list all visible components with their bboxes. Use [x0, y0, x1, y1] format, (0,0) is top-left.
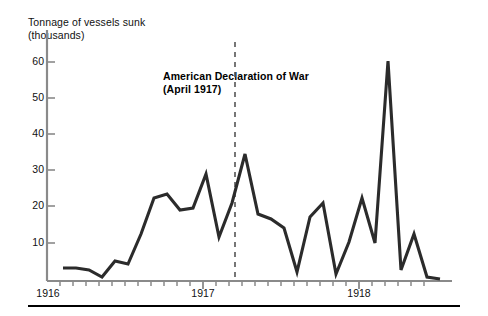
tonnage-series-line [63, 61, 440, 279]
y-axis [47, 30, 55, 281]
x-tick-label-1918: 1918 [339, 287, 379, 299]
y-tick-label-60: 60 [18, 55, 44, 67]
y-tick-label-10: 10 [18, 236, 44, 248]
chart-figure: Tonnage of vessels sunk (thousands) Amer… [0, 0, 488, 316]
y-tick-label-50: 50 [18, 91, 44, 103]
x-axis [47, 281, 452, 289]
y-tick-label-30: 30 [18, 163, 44, 175]
y-tick-label-20: 20 [18, 199, 44, 211]
x-tick-label-1917: 1917 [183, 287, 223, 299]
x-tick-label-1916: 1916 [28, 287, 68, 299]
chart-canvas [0, 0, 488, 316]
y-tick-label-40: 40 [18, 127, 44, 139]
